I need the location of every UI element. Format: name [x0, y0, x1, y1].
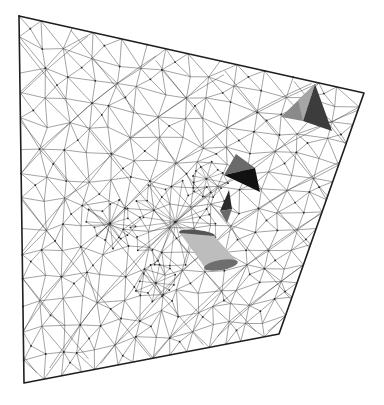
mesh-edge — [115, 345, 118, 365]
mesh-edge — [51, 236, 65, 254]
mesh-node — [139, 217, 141, 219]
mesh-edge — [123, 168, 131, 177]
mesh-node — [309, 191, 311, 193]
mesh-edge — [65, 256, 80, 274]
mesh-edge — [77, 350, 95, 353]
mesh-edge — [236, 265, 247, 291]
mesh-edge — [332, 122, 353, 125]
mesh-edge — [198, 293, 199, 313]
mesh-edge — [64, 352, 70, 363]
mesh-node — [249, 273, 251, 275]
mesh-edge — [239, 89, 253, 106]
mesh-edge — [239, 190, 240, 214]
mesh-edge — [156, 265, 160, 283]
mesh-node — [222, 92, 224, 94]
mesh-edge — [267, 121, 280, 136]
mesh-edge — [152, 250, 154, 265]
mesh-edge — [275, 152, 284, 164]
mesh-edge — [263, 195, 282, 207]
mesh-edge — [203, 148, 216, 154]
mesh-edge — [77, 311, 91, 330]
mesh-node — [259, 281, 261, 283]
mesh-node — [249, 153, 251, 155]
mesh-node — [238, 140, 240, 142]
mesh-edge — [205, 271, 225, 272]
mesh-edge — [182, 270, 205, 272]
mesh-edge — [232, 114, 251, 125]
mesh-edge — [63, 28, 72, 49]
mesh-edge — [86, 128, 89, 153]
mesh-edge — [162, 252, 188, 253]
mesh-edge — [199, 307, 213, 313]
mesh-edge — [115, 321, 140, 345]
mesh-edge — [31, 250, 42, 262]
mesh-edge — [97, 236, 105, 240]
mesh-edge — [163, 146, 177, 163]
mesh-edge — [136, 86, 158, 117]
mesh-node — [77, 139, 79, 141]
mesh-edge — [51, 199, 66, 216]
mesh-edge — [250, 269, 265, 275]
mesh-edge — [108, 127, 112, 154]
mesh-edge — [64, 352, 77, 353]
mesh-edge — [24, 357, 37, 373]
mesh-edge — [82, 59, 92, 68]
mesh-node — [168, 125, 170, 127]
mesh-edge — [129, 246, 150, 247]
mesh-edge — [66, 77, 68, 98]
mesh-edge — [175, 187, 206, 222]
mesh-edge — [62, 224, 63, 251]
mesh-edge — [63, 284, 74, 299]
mesh-edge — [284, 250, 291, 269]
mesh-edge — [41, 21, 42, 49]
mesh-edge — [156, 337, 169, 338]
mesh-edge — [251, 103, 271, 114]
mesh-node — [94, 80, 96, 82]
mesh-node — [81, 67, 83, 69]
mesh-edge — [24, 354, 46, 360]
mesh-edge — [42, 49, 63, 50]
mesh-edge — [169, 228, 182, 243]
mesh-edge — [101, 319, 122, 326]
mesh-edge — [21, 156, 36, 173]
mesh-edge — [213, 322, 229, 325]
mesh-edge — [125, 86, 136, 97]
mesh-edge — [182, 308, 198, 324]
mesh-edge — [308, 143, 320, 159]
mesh-edge — [332, 107, 335, 122]
mesh-node — [294, 202, 296, 204]
mesh-edge — [86, 210, 88, 222]
mesh-edge — [234, 86, 257, 112]
mesh-edge — [78, 140, 87, 153]
mesh-node — [190, 282, 192, 284]
mesh-node — [323, 93, 325, 95]
mesh-node — [140, 295, 142, 297]
mesh-edge — [237, 330, 241, 341]
mesh-edge — [251, 292, 268, 306]
mesh-node — [274, 298, 276, 300]
mesh-node — [92, 264, 94, 266]
mesh-node — [177, 316, 179, 318]
mesh-node — [65, 180, 67, 182]
mesh-node — [161, 196, 163, 198]
triangulated-mesh — [18, 15, 359, 379]
mesh-edge — [46, 352, 64, 354]
mesh-edge — [79, 271, 92, 287]
mesh-edge — [182, 270, 190, 283]
mesh-edge — [108, 106, 109, 127]
mesh-edge — [37, 218, 52, 236]
mesh-edge — [175, 195, 188, 222]
mesh-edge — [123, 356, 133, 362]
mesh-edge — [193, 332, 209, 348]
mesh-edge — [160, 163, 177, 177]
mesh-edge — [35, 185, 44, 201]
mesh-edge — [134, 86, 137, 112]
mesh-edge — [62, 247, 81, 251]
mesh-edge — [150, 163, 175, 181]
mesh-edge — [63, 33, 93, 49]
mesh-edge — [115, 138, 132, 153]
mesh-node — [101, 114, 103, 116]
mesh-edge — [255, 208, 258, 232]
mesh-edge — [111, 301, 125, 309]
mesh-node — [80, 246, 82, 248]
